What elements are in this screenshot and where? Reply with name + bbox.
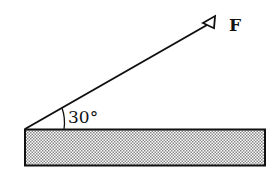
- block: [25, 130, 265, 166]
- force-diagram: F 30°: [0, 0, 276, 179]
- force-label: F: [229, 15, 241, 35]
- arrowhead-icon: [203, 16, 220, 32]
- force-vector-line: [25, 25, 207, 129]
- angle-label: 30°: [68, 107, 98, 127]
- angle-arc: [62, 108, 65, 129]
